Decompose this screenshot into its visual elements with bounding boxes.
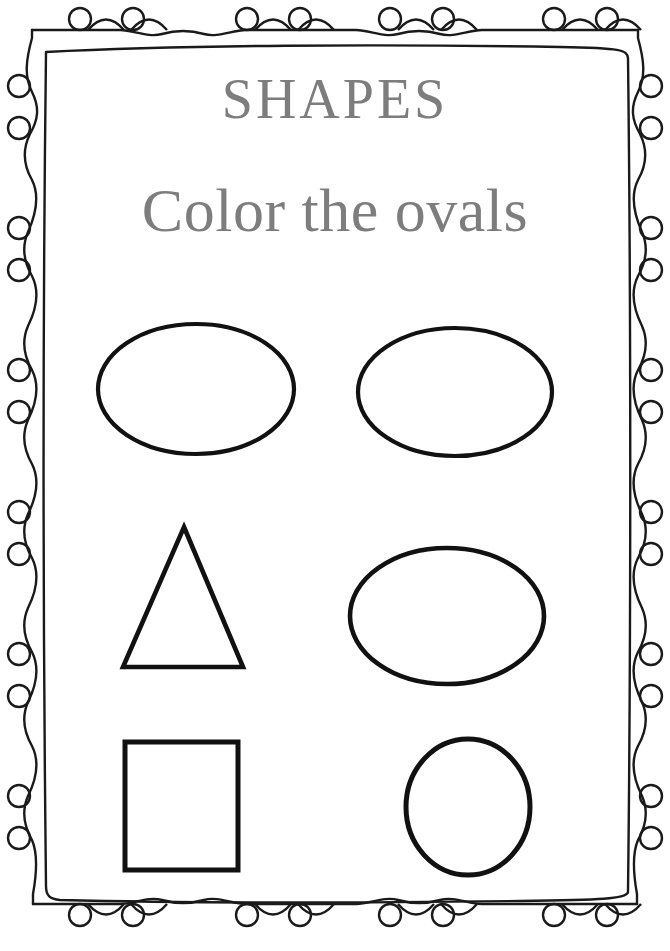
- border-loop-icon: [236, 904, 258, 926]
- shape-square-1[interactable]: [125, 742, 238, 870]
- border-loop-icon: [640, 117, 662, 139]
- border-loop-icon: [8, 827, 30, 849]
- border-outer-frame-left: [24, 30, 37, 904]
- shape-grid: [98, 324, 552, 875]
- border-inner-frame: [44, 45, 631, 902]
- border-loop-icon: [640, 359, 662, 381]
- decorative-border: [8, 8, 662, 926]
- border-loop-icon: [69, 8, 91, 30]
- border-loop-icon: [69, 904, 91, 926]
- border-loop-icon: [8, 643, 30, 665]
- border-loop-icon: [640, 827, 662, 849]
- border-outer-frame-top: [32, 30, 638, 35]
- shape-oval-1[interactable]: [98, 324, 294, 454]
- border-loop-icon: [8, 401, 30, 423]
- border-loop-icon: [236, 8, 258, 30]
- border-loop-icon: [640, 685, 662, 707]
- worksheet-page: SHAPES Color the ovals: [0, 0, 670, 951]
- border-loop-icon: [8, 117, 30, 139]
- border-loop-icon: [640, 217, 662, 239]
- shape-circle-1[interactable]: [406, 739, 530, 875]
- border-loops-top: [69, 8, 641, 30]
- border-loop-icon: [379, 904, 401, 926]
- border-loop-icon: [8, 359, 30, 381]
- border-loop-icon: [8, 501, 30, 523]
- border-loop-icon: [640, 543, 662, 565]
- border-loop-icon: [543, 904, 565, 926]
- border-loop-icon: [8, 259, 30, 281]
- border-loop-icon: [640, 259, 662, 281]
- border-loop-icon: [379, 8, 401, 30]
- border-loop-icon: [640, 401, 662, 423]
- border-loop-icon: [640, 501, 662, 523]
- border-loop-icon: [8, 75, 30, 97]
- shape-row-3: [125, 739, 530, 875]
- shape-row-1: [98, 324, 552, 456]
- border-loops-bottom: [69, 904, 641, 926]
- border-outer-frame-right: [633, 30, 646, 904]
- border-loop-icon: [640, 75, 662, 97]
- border-loop-icon: [543, 8, 565, 30]
- shape-row-2: [123, 527, 544, 684]
- worksheet-canvas: [0, 0, 670, 951]
- shape-oval-3[interactable]: [350, 548, 544, 684]
- border-loop-icon: [640, 643, 662, 665]
- border-loop-icon: [8, 685, 30, 707]
- border-loop-icon: [8, 217, 30, 239]
- shape-triangle-1[interactable]: [123, 527, 243, 667]
- shape-oval-2[interactable]: [358, 328, 552, 456]
- border-loop-icon: [8, 543, 30, 565]
